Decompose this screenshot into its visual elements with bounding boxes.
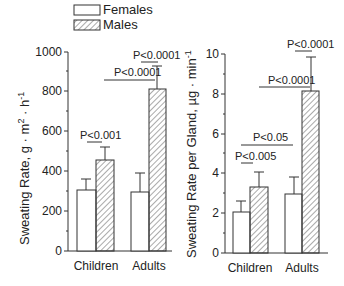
p-value-annotation: P<0.0001 (133, 49, 180, 61)
legend-swatch-males (74, 20, 100, 30)
legend: Females Males (74, 2, 153, 32)
bar-adults-males (149, 89, 166, 251)
bar-adults-males (302, 91, 319, 253)
ytick-label: 2 (212, 206, 219, 220)
bar-children-females (77, 190, 96, 251)
x-category-label: Children (228, 261, 273, 275)
bar-children-males (96, 160, 114, 251)
ytick-label: 400 (42, 164, 62, 178)
bar-adults-females (285, 194, 302, 253)
ytick-label: 4 (212, 166, 219, 180)
figure: Females Males 0 200 400 600 800 1000 Swe… (0, 0, 344, 286)
x-category-label: Adults (285, 261, 318, 275)
bar-adults-females (131, 192, 149, 251)
ytick-label: 800 (42, 84, 62, 98)
chart-left: 0 200 400 600 800 1000 Sweating Rate, g … (16, 45, 180, 273)
x-category-label: Children (74, 259, 119, 273)
p-value-annotation: P<0.0001 (114, 66, 161, 78)
y-axis-label: Sweating Rate per Gland, µg · min-1 (183, 50, 199, 258)
ytick-label: 600 (42, 124, 62, 138)
p-value-annotation: P<0.005 (235, 150, 276, 162)
legend-label-females: Females (103, 2, 153, 17)
ytick-label: 1000 (35, 45, 62, 59)
ytick-label: 6 (212, 127, 219, 141)
chart-right: 0 2 4 6 8 10 Sweating Rate per Gland, µg… (183, 38, 334, 275)
p-value-annotation: P<0.05 (253, 131, 288, 143)
ytick-label: 200 (42, 204, 62, 218)
ytick-label: 0 (55, 244, 62, 258)
p-value-annotation: P<0.0001 (268, 74, 315, 86)
p-value-annotation: P<0.0001 (287, 38, 334, 50)
p-value-annotation: P<0.001 (80, 129, 121, 141)
ytick-label: 8 (212, 87, 219, 101)
ytick-label: 0 (212, 246, 219, 260)
legend-label-males: Males (103, 17, 138, 32)
legend-swatch-females (74, 5, 100, 15)
bar-children-females (233, 212, 250, 253)
x-category-label: Adults (132, 259, 165, 273)
y-axis-label: Sweating Rate, g · m2 · h-1 (16, 92, 32, 245)
ytick-label: 10 (206, 47, 220, 61)
bar-children-males (250, 187, 268, 253)
